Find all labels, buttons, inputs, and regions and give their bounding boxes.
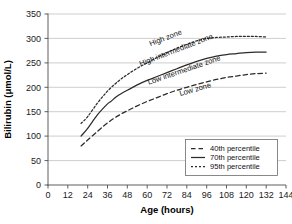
y-tick-label: 250 [26, 58, 41, 68]
x-tick-label: 36 [102, 190, 112, 200]
y-tick-label: 150 [26, 107, 41, 117]
chart-legend: 40th percentile 70th percentile 95th per… [186, 140, 278, 176]
legend-label-70th: 70th percentile [210, 153, 260, 162]
curve-40th-percentile [81, 73, 266, 146]
chart-canvas: 350 300 250 200 150 100 50 0 0 12 24 36 … [0, 0, 292, 224]
y-tick-label: 200 [26, 83, 41, 93]
x-tick-label: 12 [63, 190, 73, 200]
x-tick-label: 120 [239, 190, 254, 200]
x-tick-label: 132 [259, 190, 274, 200]
y-tick-labels: 350 300 250 200 150 100 50 0 [26, 9, 41, 190]
y-tick-label: 300 [26, 34, 41, 44]
curve-70th-percentile [81, 52, 266, 136]
bilirubin-nomogram-figure: 350 300 250 200 150 100 50 0 0 12 24 36 … [0, 0, 292, 224]
x-tick-label: 60 [142, 190, 152, 200]
y-tick-label: 350 [26, 9, 41, 19]
y-tick-label: 50 [31, 156, 41, 166]
legend-label-95th: 95th percentile [210, 162, 260, 171]
x-tick-marks [48, 185, 286, 189]
y-axis-title: Bilirubin (μmol/L) [2, 60, 13, 139]
y-tick-label: 0 [36, 180, 41, 190]
x-tick-label: 72 [162, 190, 172, 200]
x-tick-label: 24 [83, 190, 93, 200]
x-axis-title: Age (hours) [140, 204, 193, 215]
x-tick-label: 84 [182, 190, 192, 200]
x-tick-label: 108 [219, 190, 234, 200]
x-tick-label: 0 [45, 190, 50, 200]
y-tick-label: 100 [26, 131, 41, 141]
x-tick-label: 48 [122, 190, 132, 200]
x-tick-label: 144 [278, 190, 292, 200]
zone-label-low: Low zone [178, 80, 212, 98]
legend-label-40th: 40th percentile [210, 144, 260, 153]
x-tick-label: 96 [202, 190, 212, 200]
y-tick-marks [45, 14, 49, 185]
x-tick-labels: 0 12 24 36 48 60 72 84 96 108 120 132 14… [45, 190, 292, 200]
